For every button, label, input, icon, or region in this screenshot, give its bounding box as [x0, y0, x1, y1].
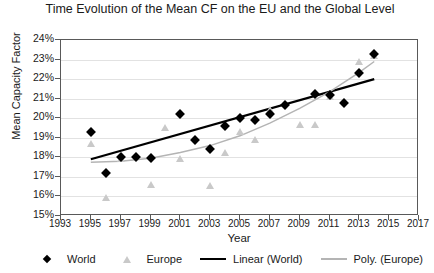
legend-item[interactable]: Poly. (Europe)	[321, 253, 424, 265]
data-point-europe	[147, 181, 155, 188]
data-point-europe	[161, 124, 169, 131]
data-point-europe	[87, 140, 95, 147]
data-point-europe	[355, 58, 363, 65]
chart-title: Time Evolution of the Mean CF on the EU …	[40, 2, 400, 17]
gray-line-icon	[321, 258, 347, 260]
data-point-europe	[296, 121, 304, 128]
legend-item[interactable]: Europe	[114, 253, 182, 265]
data-point-europe	[236, 128, 244, 135]
gray-line	[321, 258, 347, 260]
data-point-europe	[206, 182, 214, 189]
black-line-icon	[200, 258, 226, 260]
chart-container: Time Evolution of the Mean CF on the EU …	[0, 0, 434, 273]
diamond-marker-icon	[34, 256, 60, 262]
data-point-europe	[221, 149, 229, 156]
x-axis-tick-label: 2017	[398, 218, 434, 229]
y-axis-tick-label: 24%	[16, 32, 54, 44]
data-point-europe	[251, 136, 259, 143]
diamond-marker	[43, 255, 51, 263]
y-axis-tick-label: 20%	[16, 110, 54, 122]
black-line	[200, 258, 226, 260]
chart-legend: WorldEuropeLinear (World)Poly. (Europe)	[34, 249, 434, 269]
y-axis-tick-label: 19%	[16, 130, 54, 142]
legend-label: Europe	[147, 253, 182, 265]
triangle-marker	[123, 256, 131, 263]
data-point-europe	[102, 194, 110, 201]
legend-label: Linear (World)	[233, 253, 303, 265]
plot-area	[60, 39, 418, 215]
y-axis-tick-label: 22%	[16, 71, 54, 83]
y-axis-tick-label: 16%	[16, 188, 54, 200]
y-axis-tick-label: 21%	[16, 91, 54, 103]
legend-item[interactable]: Linear (World)	[200, 253, 303, 265]
x-axis-title: Year	[60, 232, 418, 244]
y-axis-tick-label: 23%	[16, 52, 54, 64]
triangle-marker-icon	[114, 256, 140, 263]
legend-label: Poly. (Europe)	[354, 253, 424, 265]
data-point-europe	[176, 155, 184, 162]
legend-label: World	[67, 253, 96, 265]
legend-item[interactable]: World	[34, 253, 96, 265]
y-axis-tick-label: 17%	[16, 169, 54, 181]
data-point-europe	[311, 121, 319, 128]
y-axis-tick-label: 18%	[16, 149, 54, 161]
